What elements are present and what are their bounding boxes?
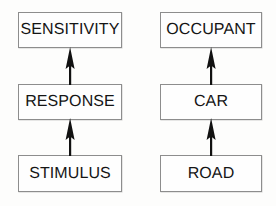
node-label-sensitivity: SENSITIVITY xyxy=(21,22,120,38)
diagram-canvas: SENSITIVITY RESPONSE STIMULUS OCCUPANT C… xyxy=(0,0,276,206)
node-car[interactable]: CAR xyxy=(160,84,262,120)
node-road[interactable]: ROAD xyxy=(160,155,262,192)
arrow-response-to-sensitivity-icon xyxy=(59,47,81,85)
arrow-road-to-car-icon xyxy=(200,118,222,156)
arrow-stimulus-to-response-icon xyxy=(59,118,81,156)
node-label-stimulus: STIMULUS xyxy=(29,166,111,182)
node-label-occupant: OCCUPANT xyxy=(166,22,255,38)
node-label-response: RESPONSE xyxy=(25,94,115,110)
node-label-car: CAR xyxy=(194,94,228,110)
node-label-road: ROAD xyxy=(188,166,235,182)
column-abstract-chain: SENSITIVITY RESPONSE STIMULUS xyxy=(18,0,122,206)
arrow-car-to-occupant-icon xyxy=(200,47,222,85)
node-response[interactable]: RESPONSE xyxy=(18,84,122,120)
node-occupant[interactable]: OCCUPANT xyxy=(160,12,262,48)
node-stimulus[interactable]: STIMULUS xyxy=(18,155,122,192)
column-concrete-chain: OCCUPANT CAR ROAD xyxy=(160,0,262,206)
node-sensitivity[interactable]: SENSITIVITY xyxy=(18,12,122,48)
